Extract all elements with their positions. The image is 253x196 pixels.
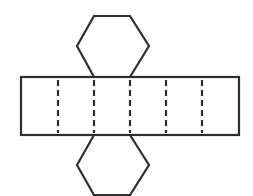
- hexagonal-prism-net: [0, 0, 253, 196]
- background: [0, 0, 253, 196]
